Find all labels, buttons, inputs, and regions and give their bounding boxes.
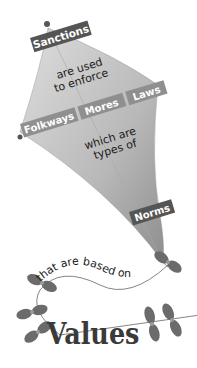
bow-icon (152, 249, 184, 276)
bow-icon (143, 305, 162, 342)
svg-text:that are based on: that are based on (34, 255, 132, 285)
kite-diagram: Sanctions are used to enforce Folkways M… (0, 0, 197, 368)
bow-icon (15, 303, 48, 321)
values-label: Values (46, 316, 140, 352)
